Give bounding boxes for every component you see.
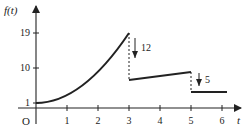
curve-segment-2 [129,72,191,80]
origin-label: O [22,115,30,127]
svg-text:2: 2 [96,115,101,126]
drop-label-12: 12 [141,42,151,53]
y-axis-label: f(t) [4,4,18,17]
svg-text:19: 19 [20,27,30,38]
svg-text:1: 1 [25,97,30,108]
y-tick-labels: 1 10 19 [20,27,30,108]
svg-text:4: 4 [158,115,163,126]
svg-text:6: 6 [220,115,225,126]
x-axis-label: t [237,114,241,126]
curve-segment-1 [36,33,129,103]
svg-text:3: 3 [127,115,132,126]
chart-figure: f(t) t O 1 2 3 4 5 6 1 10 19 12 5 [0,0,251,135]
x-tick-labels: 1 2 3 4 5 6 [65,115,225,126]
svg-text:10: 10 [20,62,30,73]
drop-label-5: 5 [205,74,210,85]
svg-text:1: 1 [65,115,70,126]
svg-text:5: 5 [189,115,194,126]
